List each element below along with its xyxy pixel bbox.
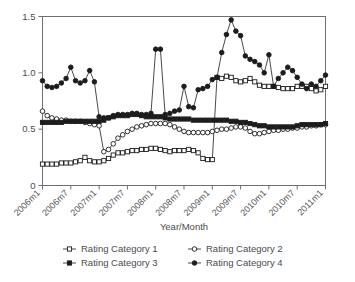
data-point <box>106 116 111 121</box>
data-point <box>272 125 276 129</box>
data-point <box>285 65 290 70</box>
data-point <box>78 81 83 86</box>
data-point <box>319 123 323 127</box>
data-point <box>267 129 272 134</box>
data-point <box>135 125 140 130</box>
legend-item-4[interactable]: Rating Category 4 <box>188 257 283 268</box>
data-point <box>163 112 168 117</box>
data-point <box>243 120 247 124</box>
data-point <box>267 84 271 88</box>
data-point <box>88 159 92 163</box>
data-point <box>205 130 210 135</box>
data-point <box>243 54 248 59</box>
data-point <box>125 150 129 154</box>
data-point <box>215 118 219 122</box>
data-point <box>168 117 172 121</box>
data-point <box>40 109 45 114</box>
data-point <box>234 125 239 130</box>
x-tick-label: 2006m7 <box>40 188 70 218</box>
data-point <box>300 82 305 87</box>
data-point <box>45 113 50 118</box>
data-point <box>73 78 78 83</box>
data-point <box>295 75 300 80</box>
data-point <box>257 131 262 136</box>
data-point <box>191 105 196 110</box>
data-point <box>234 29 239 34</box>
data-point <box>92 80 97 85</box>
data-point <box>257 124 261 128</box>
data-point <box>295 84 299 88</box>
data-point <box>196 118 200 122</box>
data-point <box>286 87 290 91</box>
legend-item-3[interactable]: Rating Category 3 <box>63 257 158 268</box>
series-2 <box>40 109 328 154</box>
data-point <box>182 148 186 152</box>
data-point <box>54 84 59 89</box>
data-point <box>220 76 224 80</box>
data-point <box>239 80 243 84</box>
data-point <box>191 118 195 122</box>
data-point <box>64 76 69 81</box>
data-point <box>111 142 116 147</box>
data-point <box>191 148 195 152</box>
data-point <box>196 87 201 92</box>
x-tick-label: 2010m1 <box>238 188 268 218</box>
data-point <box>262 130 267 135</box>
data-point <box>59 120 63 124</box>
data-point <box>224 74 228 78</box>
data-point <box>144 147 148 151</box>
plot-frame <box>43 17 326 186</box>
data-point <box>149 111 154 116</box>
x-tick-label: 2009m1 <box>182 188 212 218</box>
data-point <box>130 111 135 116</box>
data-point <box>78 159 82 163</box>
legend-item-2[interactable]: Rating Category 2 <box>188 243 283 254</box>
data-point <box>323 73 328 78</box>
data-point <box>106 156 110 160</box>
data-point <box>139 147 143 151</box>
data-point <box>210 157 214 161</box>
data-point <box>276 125 280 129</box>
data-point <box>168 122 173 127</box>
legend-item-1[interactable]: Rating Category 1 <box>63 243 158 254</box>
data-point <box>304 86 309 91</box>
data-point <box>111 153 115 157</box>
x-tick-label: 2008m7 <box>153 188 183 218</box>
data-point <box>210 129 215 134</box>
legend-marker-icon <box>192 247 197 252</box>
data-point <box>88 119 92 123</box>
data-point <box>248 129 253 134</box>
data-point <box>210 77 215 82</box>
data-point <box>45 162 49 166</box>
data-point <box>186 104 191 109</box>
data-point <box>309 87 313 91</box>
data-point <box>314 89 318 93</box>
data-point <box>172 117 176 121</box>
data-point <box>238 125 243 130</box>
data-point <box>45 84 50 89</box>
data-point <box>182 129 187 134</box>
data-point <box>281 71 286 76</box>
data-point <box>102 116 107 121</box>
data-point <box>276 76 281 81</box>
legend-marker-icon <box>192 261 197 266</box>
data-point <box>153 47 158 52</box>
data-point <box>290 68 295 73</box>
x-tick-label: 2011m1 <box>295 188 325 218</box>
data-point <box>224 32 229 37</box>
data-point <box>125 112 130 117</box>
data-point <box>182 117 186 121</box>
data-point <box>177 127 182 132</box>
legend-marker-icon <box>67 261 71 265</box>
x-tick-label: 2006m1 <box>12 188 42 218</box>
data-point <box>248 76 252 80</box>
data-point <box>262 71 267 76</box>
y-tick-label: 1.5 <box>22 11 35 22</box>
legend-marker-icon <box>67 247 71 251</box>
data-point <box>87 68 92 73</box>
data-point <box>97 160 101 164</box>
data-point <box>116 151 120 155</box>
data-point <box>69 65 74 70</box>
data-point <box>300 123 304 127</box>
data-point <box>139 123 144 128</box>
